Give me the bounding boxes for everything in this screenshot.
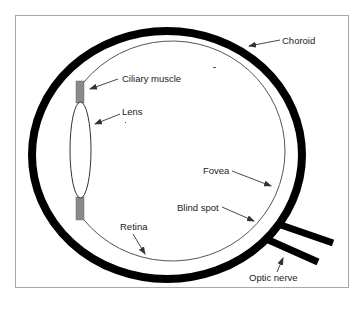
speck-mark (213, 67, 216, 68)
eye-diagram: Choroid Ciliary muscle Lens Fovea Blind … (0, 0, 362, 315)
speck-dot (125, 122, 126, 123)
label-choroid: Choroid (282, 35, 315, 46)
label-blind-spot: Blind spot (177, 202, 219, 213)
label-retina: Retina (120, 221, 148, 232)
label-optic-nerve: Optic nerve (249, 272, 298, 283)
label-ciliary-muscle: Ciliary muscle (122, 73, 181, 84)
lens (70, 102, 91, 198)
ciliary-muscle-upper (76, 81, 84, 103)
label-fovea: Fovea (203, 165, 230, 176)
ciliary-muscle-lower (76, 197, 84, 220)
eye-diagram-canvas: Choroid Ciliary muscle Lens Fovea Blind … (0, 0, 362, 315)
label-lens: Lens (122, 106, 143, 117)
